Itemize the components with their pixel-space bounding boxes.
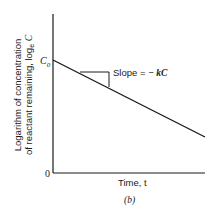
y-axis-label-line2: of reactant remaining, loge C	[23, 34, 35, 155]
slope-triangle	[80, 72, 109, 87]
panel-label: (b)	[124, 195, 135, 206]
chart: C0 0 Slope = − kC Time, t (b) Logarithm …	[0, 0, 216, 213]
slope-annotation: Slope = − kC	[113, 67, 168, 78]
y-tick-origin: 0	[45, 168, 50, 179]
y-axis-label-line1: Logarithm of concentration	[12, 39, 23, 151]
y-tick-c0: C0	[40, 55, 51, 69]
x-axis-label: Time, t	[118, 177, 147, 188]
